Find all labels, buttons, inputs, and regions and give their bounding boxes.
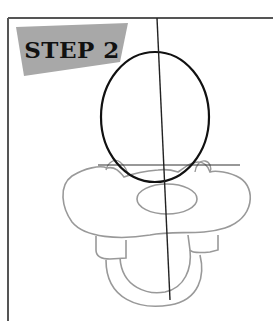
right-knob <box>188 235 218 253</box>
center-oval <box>137 184 197 214</box>
step-label: STEP 2 <box>14 23 130 75</box>
pacifier-ring-inner <box>120 250 190 293</box>
vertical-guide-line <box>157 18 170 300</box>
left-knob <box>96 236 126 259</box>
pacifier-shield <box>63 162 250 237</box>
